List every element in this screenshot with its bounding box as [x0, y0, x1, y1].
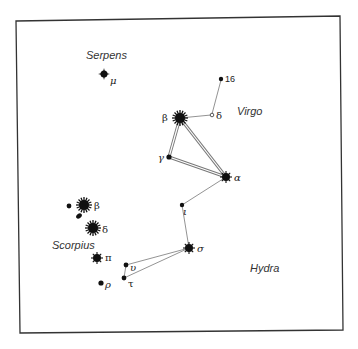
star-virgo-delta [210, 113, 214, 117]
label-scorpius: Scorpius [52, 239, 95, 251]
star-serpens-mu [98, 68, 110, 80]
label-star-hydra-sigma: σ [197, 243, 205, 254]
label-star-scorpius-pi: π [105, 252, 112, 263]
label-virgo: Virgo [237, 105, 262, 117]
label-star-mu: μ [110, 75, 117, 86]
label-star-scorpius-rho: ρ [104, 279, 111, 290]
star-tau [122, 276, 127, 281]
label-star-16: 16 [225, 74, 235, 84]
label-star-virgo-gamma: γ [158, 152, 164, 163]
star-scorpius-delta [85, 220, 101, 236]
star-virgo-alpha [220, 171, 232, 183]
star-virgo-16 [219, 77, 223, 81]
label-star-scorpius-delta: δ [102, 224, 108, 235]
label-star-tau: τ [128, 278, 134, 289]
star-scorpius-pi [91, 252, 103, 264]
star-scorpius-small [67, 204, 72, 209]
label-star-iota: ι [183, 206, 187, 217]
label-star-scorpius-beta: β [94, 200, 100, 211]
label-star-virgo-alpha: α [234, 172, 241, 183]
chart-frame [16, 16, 343, 333]
label-serpens: Serpens [86, 49, 127, 61]
star-scorpius-beta [76, 197, 92, 213]
star-scorpius-rho [98, 280, 103, 285]
label-hydra: Hydra [250, 262, 279, 274]
star-upsilon [124, 263, 129, 268]
constellation-lines [124, 80, 226, 278]
star-chart: Serpens Virgo Scorpius Hydra μ 16 δ β γ … [0, 0, 358, 349]
label-star-virgo-delta: δ [216, 110, 222, 121]
star-scorpius-beta2 [75, 212, 83, 219]
label-star-virgo-beta: β [162, 112, 168, 123]
star-hydra-sigma [183, 242, 195, 254]
label-star-upsilon: υ [130, 262, 136, 273]
star-virgo-gamma [166, 154, 171, 159]
